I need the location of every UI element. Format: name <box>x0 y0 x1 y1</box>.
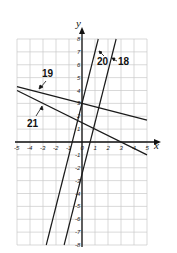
label-19: 19 <box>42 68 54 79</box>
x-tick-label: 2 <box>106 145 111 151</box>
y-tick-label: -8 <box>75 242 81 248</box>
arrowhead-21-icon <box>40 106 43 110</box>
y-tick-label: -2 <box>75 165 81 171</box>
x-tick-label: -2 <box>53 145 59 151</box>
y-axis-label: y <box>75 17 81 29</box>
y-tick-label: -7 <box>75 229 81 235</box>
arrowhead-18-icon <box>112 58 115 61</box>
label-20: 20 <box>97 56 109 67</box>
x-tick-label: -4 <box>27 145 33 151</box>
x-tick-label: 3 <box>120 145 124 151</box>
x-tick-label: -5 <box>14 145 20 151</box>
label-18: 18 <box>118 56 130 67</box>
y-tick-label: -1 <box>75 152 80 158</box>
x-tick-label: -3 <box>40 145 46 151</box>
x-tick-label: 1 <box>94 145 97 151</box>
x-axis-label: x <box>153 139 159 151</box>
x-tick-label: 5 <box>146 145 150 151</box>
label-21: 21 <box>27 118 39 129</box>
y-tick-label: -5 <box>75 203 81 209</box>
coordinate-graph: -5-4-3-2-101234587654321-1-2-3-4-5-6-7-8… <box>0 0 177 253</box>
y-tick-label: -6 <box>75 216 81 222</box>
x-tick-label: 0 <box>81 145 85 151</box>
axes <box>15 27 161 247</box>
y-tick-label: 1 <box>77 126 80 132</box>
